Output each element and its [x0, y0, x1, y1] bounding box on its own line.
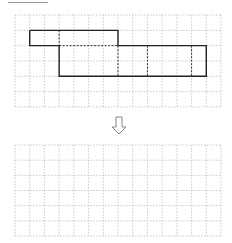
net-diagram [0, 0, 232, 243]
drawing-grid[interactable] [15, 145, 221, 236]
down-arrow-icon [112, 117, 126, 134]
